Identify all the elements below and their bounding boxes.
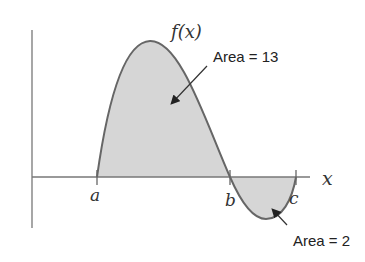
area-negative-label: Area = 2 <box>293 232 350 249</box>
point-label-b: b <box>225 190 236 210</box>
area-diagram: a b c x f(x) Area = 13 Area = 2 <box>0 0 365 262</box>
x-axis-label: x <box>322 167 333 189</box>
shaded-area-region <box>97 41 296 219</box>
area-positive-label: Area = 13 <box>213 48 278 65</box>
point-label-c: c <box>289 188 299 208</box>
function-label: f(x) <box>169 21 202 42</box>
point-label-a: a <box>90 185 100 205</box>
